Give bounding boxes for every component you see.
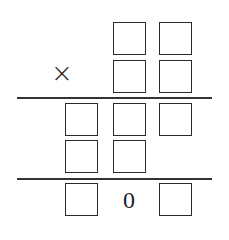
partial2-thousands-box[interactable] [65,140,98,173]
product-tens-digit: 0 [119,186,139,214]
multiplicand-tens-box[interactable] [113,22,146,55]
divider-line-1 [17,97,212,99]
multiply-operator: × [51,60,73,86]
divider-line-2 [17,178,212,180]
partial1-ones-box[interactable] [159,103,192,136]
partial1-tens-box[interactable] [113,103,146,136]
partial1-hundreds-box[interactable] [65,103,98,136]
multiplicand-ones-box[interactable] [159,22,192,55]
multiplier-ones-box[interactable] [159,60,192,93]
multiplier-tens-box[interactable] [113,60,146,93]
partial2-hundreds-box[interactable] [113,140,146,173]
product-hundreds-box[interactable] [65,183,98,216]
product-ones-box[interactable] [159,183,192,216]
